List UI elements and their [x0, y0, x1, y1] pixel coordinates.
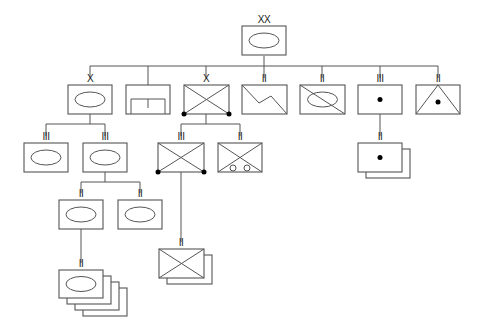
unit-armor-battalions-stack[interactable]	[59, 270, 127, 316]
unit-armor-battalion-1[interactable]	[59, 200, 103, 229]
echelon-label-infantry-battalions: II	[179, 238, 184, 248]
echelon-label-cavalry: II	[320, 74, 325, 84]
echelon-label-armor-battalion-2: II	[138, 189, 143, 199]
echelon-label-artillery-regiment: III	[377, 74, 384, 84]
unit-wheeled-infantry-battalion[interactable]	[218, 143, 262, 172]
echelon-label-brigade-airborne: X	[203, 74, 209, 84]
echelon-label-artillery-battalions: II	[378, 132, 383, 142]
unit-artillery-regiment[interactable]	[358, 85, 402, 114]
unit-armor-regiment-1[interactable]	[24, 143, 68, 172]
echelon-label-brigade-armor: X	[87, 74, 93, 84]
unit-infantry-battalions-stack[interactable]	[159, 249, 212, 284]
echelon-label-wheeled-infantry: II	[238, 132, 243, 142]
unit-armor-regiment-2[interactable]	[83, 143, 127, 172]
org-chart	[0, 0, 486, 334]
unit-brigade-airborne-infantry[interactable]	[182, 85, 232, 117]
echelon-label-armor-battalion-1: II	[79, 189, 84, 199]
echelon-label-airborne-infantry-regiment: III	[178, 132, 185, 142]
unit-engineer[interactable]	[126, 85, 170, 114]
echelon-label-division: XX	[258, 15, 270, 25]
unit-brigade-armor[interactable]	[68, 85, 112, 114]
unit-airborne-infantry-regiment[interactable]	[156, 143, 207, 175]
unit-air-defense-battalion[interactable]	[416, 85, 460, 114]
echelon-label-armor-regiment-2: III	[102, 132, 109, 142]
echelon-label-armor-regiment-1: III	[43, 132, 50, 142]
echelon-label-armor-battalions: II	[79, 259, 84, 269]
unit-signal-battalion[interactable]	[242, 85, 287, 114]
unit-division-armor[interactable]	[242, 26, 286, 55]
unit-armor-battalion-2[interactable]	[118, 200, 162, 229]
echelon-label-signal: II	[262, 74, 267, 84]
echelon-label-air-defense: II	[436, 74, 441, 84]
unit-armored-cavalry-battalion[interactable]	[300, 85, 345, 114]
unit-artillery-battalions-stack[interactable]	[358, 143, 410, 178]
